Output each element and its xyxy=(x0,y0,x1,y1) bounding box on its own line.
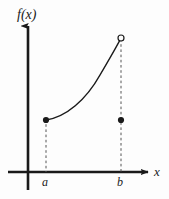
closed-point-at-a xyxy=(43,117,49,123)
open-point-at-b xyxy=(118,35,124,41)
function-curve xyxy=(46,38,121,120)
function-graph-figure: f(x) x a b xyxy=(0,0,169,199)
graph-canvas xyxy=(0,0,169,199)
y-axis-label: f(x) xyxy=(17,8,36,22)
x-tick-label-b: b xyxy=(117,176,123,188)
x-axis-label: x xyxy=(154,165,160,178)
closed-point-value-at-b xyxy=(118,117,124,123)
x-tick-label-a: a xyxy=(42,176,48,188)
